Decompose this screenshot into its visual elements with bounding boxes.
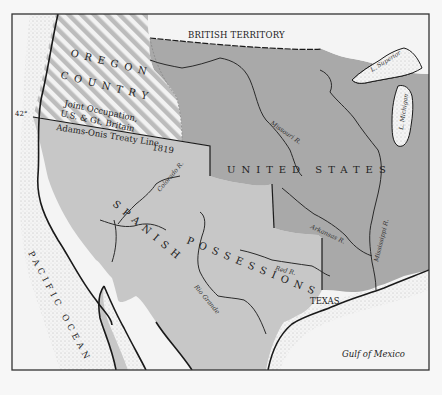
label-texas: TEXAS — [310, 296, 340, 306]
label-gulf-of-mexico: Gulf of Mexico — [342, 349, 405, 359]
label-british-territory: BRITISH TERRITORY — [188, 30, 285, 40]
historical-map-1819: BRITISH TERRITORY OREGON COUNTRY Joint O… — [0, 0, 442, 395]
label-latitude-42: 42° — [15, 110, 27, 118]
map-canvas: BRITISH TERRITORY OREGON COUNTRY Joint O… — [0, 0, 442, 395]
label-united-states: UNITED STATES — [227, 164, 392, 175]
